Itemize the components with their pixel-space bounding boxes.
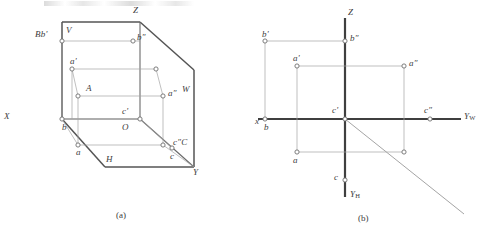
marker-a-double-prime	[161, 94, 165, 98]
descriptive-geometry-figure: V Z Bb' b″ a' A a″ W X b a c' O c″C c H …	[0, 0, 503, 241]
label-c-double-prime-C-a: c″C	[173, 138, 187, 147]
label-w-plane-a: W	[182, 85, 190, 94]
label-axis-z-a: Z	[133, 6, 138, 15]
label-axis-y-a: Y	[193, 168, 198, 177]
marker-bb-prime	[60, 39, 64, 43]
marker-a-bottom-b	[295, 150, 299, 154]
marker-b-double-prime-b	[343, 39, 347, 43]
label-c-prime-b: c'	[332, 106, 338, 115]
label-c-prime-a: c'	[122, 107, 128, 116]
w-plane-upper-chamfer	[140, 22, 194, 70]
panel-b-point-markers	[263, 39, 432, 182]
label-A-point-a: A	[86, 84, 92, 93]
label-a-double-prime-b: a″	[409, 59, 418, 68]
label-c-bottom-a: c	[170, 152, 174, 161]
label-v-plane-a: V	[66, 26, 72, 35]
label-b-double-prime-b: b″	[350, 34, 359, 43]
marker-c-prime	[138, 117, 142, 121]
label-b-prime-b: b'	[262, 30, 269, 39]
caption-panel-b: (b)	[358, 213, 369, 223]
label-h-plane-a: H	[106, 155, 113, 164]
label-origin-a: O	[122, 123, 129, 132]
label-bb-prime-a: Bb'	[35, 30, 48, 39]
line-row-to-adprime	[156, 69, 163, 96]
line-to-y-corner	[163, 145, 194, 167]
label-c-bottom-b: c	[334, 173, 338, 182]
marker-c-prime-b	[343, 117, 347, 121]
figure-canvas	[0, 0, 503, 241]
marker-A	[76, 94, 80, 98]
label-axis-z-b: Z	[348, 8, 353, 17]
panel-b-group	[258, 18, 464, 214]
caption-panel-a: (a)	[116, 210, 126, 220]
marker-b-prime-b	[263, 39, 267, 43]
marker-aprime-right	[154, 67, 158, 71]
label-a-bottom-a: a	[76, 148, 81, 157]
marker-c-bottom-b	[343, 178, 347, 182]
label-axis-yw-subscript: W	[469, 114, 475, 121]
label-b-bottom-a: b	[62, 123, 67, 132]
marker-bisector-intersection	[402, 150, 406, 154]
panel-b-construction-lines	[265, 41, 404, 152]
label-axis-yw-b: YW	[464, 112, 475, 122]
label-a-prime-b: a'	[293, 54, 300, 63]
marker-b-bottom	[60, 117, 64, 121]
marker-lower-right	[161, 143, 165, 147]
marker-b-double-prime	[131, 39, 135, 43]
h-plane-left-chamfer	[62, 119, 105, 167]
panel-b-bisector	[345, 119, 464, 214]
label-a-double-prime-a: a″	[168, 89, 177, 98]
label-axis-yh-b: YH	[350, 190, 360, 200]
label-axis-yh-subscript: H	[355, 192, 360, 199]
label-axis-x-a: X	[4, 112, 10, 121]
line-aprime-to-A	[72, 69, 78, 96]
line-cprime-to-cdprime	[140, 119, 172, 148]
marker-b-bottom-b	[263, 117, 267, 121]
bisector-ray	[345, 119, 464, 214]
label-a-prime-a: a'	[70, 57, 77, 66]
marker-c-double-prime-b	[428, 117, 432, 121]
marker-a-prime-b	[295, 64, 299, 68]
label-c-double-prime-b: c″	[424, 106, 432, 115]
label-a-bottom-b: a	[293, 156, 298, 165]
marker-a-prime	[70, 67, 74, 71]
label-b-double-prime-a: b″	[137, 33, 146, 42]
label-b-bottom-b: b	[264, 123, 269, 132]
label-axis-x-b: x	[255, 117, 259, 126]
marker-a-double-prime-b	[402, 64, 406, 68]
